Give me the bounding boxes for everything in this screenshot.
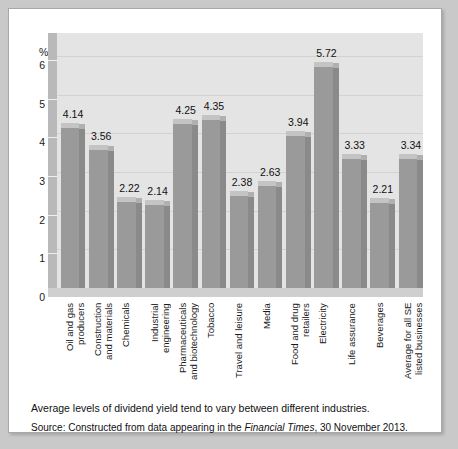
x-axis-label-7: Travel and leisure xyxy=(234,303,245,391)
bar-6 xyxy=(202,120,221,288)
bar-top-face xyxy=(286,131,305,136)
bar-top-bevel xyxy=(79,124,85,129)
bar-9 xyxy=(286,136,305,288)
y-axis-tick-0: 0 xyxy=(19,291,45,303)
bar-7 xyxy=(230,196,249,288)
y-axis-tickmark xyxy=(48,60,57,61)
x-axis-label-3: Chemicals xyxy=(121,303,132,391)
bar-top-face xyxy=(173,119,192,124)
bar-value-label: 4.35 xyxy=(204,100,224,112)
bar-10 xyxy=(314,67,333,288)
y-axis-tick-6: 6 xyxy=(19,59,45,71)
x-axis-label-2: Construction and materials xyxy=(93,303,114,391)
y-axis-tickmark xyxy=(48,137,57,138)
bar-front-face xyxy=(258,186,277,288)
bar-front-face xyxy=(61,128,80,288)
bar-front-face xyxy=(173,124,192,288)
bar-front-face xyxy=(117,202,136,288)
y-axis-tick-3: 3 xyxy=(19,175,45,187)
bar-chart: % 0123456 4.143.562.222.144.254.352.382.… xyxy=(15,15,435,393)
source-suffix: , 30 November 2013. xyxy=(314,422,407,433)
bar-top-face xyxy=(230,191,249,196)
x-axis-label-12: Beverages xyxy=(375,303,386,391)
bar-value-label: 2.38 xyxy=(232,176,252,188)
x-axis-label-13: Average for all SE listed businesses xyxy=(403,303,424,391)
bar-top-face xyxy=(258,181,277,186)
bar-top-bevel xyxy=(276,182,282,187)
y-axis-tickmark xyxy=(48,176,57,177)
bar-side-face xyxy=(417,155,423,288)
bar-top-face xyxy=(202,115,221,120)
bar-top-bevel xyxy=(389,199,395,204)
bar-front-face xyxy=(399,159,418,288)
bar-value-label: 5.72 xyxy=(316,47,336,59)
bar-top-bevel xyxy=(108,146,114,151)
bar-value-label: 2.22 xyxy=(119,182,139,194)
plot-floor xyxy=(48,288,423,297)
bar-top-face xyxy=(117,197,136,202)
bar-top-face xyxy=(370,198,389,203)
bar-1 xyxy=(61,128,80,288)
bar-top-face xyxy=(89,145,108,150)
bar-value-label: 3.33 xyxy=(344,139,364,151)
bar-5 xyxy=(173,124,192,288)
bar-side-face xyxy=(361,155,367,288)
bar-value-label: 3.34 xyxy=(401,139,421,151)
bar-top-bevel xyxy=(164,201,170,206)
y-axis-tick-1: 1 xyxy=(19,252,45,264)
bar-front-face xyxy=(230,196,249,288)
y-axis-tick-marks xyxy=(48,33,57,297)
bar-top-bevel xyxy=(333,63,339,68)
bar-top-bevel xyxy=(220,116,226,121)
bar-front-face xyxy=(202,120,221,288)
bar-value-label: 4.25 xyxy=(175,104,195,116)
y-axis-tick-2: 2 xyxy=(19,214,45,226)
bar-3 xyxy=(117,202,136,288)
bar-side-face xyxy=(276,182,282,288)
bar-top-face xyxy=(61,123,80,128)
bar-top-face xyxy=(342,154,361,159)
bar-side-face xyxy=(164,201,170,288)
x-axis-label-5: Pharmaceuticals and biotechnology xyxy=(178,303,199,391)
bar-side-face xyxy=(248,192,254,288)
y-axis-tick-labels: 0123456 xyxy=(15,15,45,393)
bar-value-label: 2.63 xyxy=(260,166,280,178)
bar-top-face xyxy=(314,62,333,67)
bar-top-bevel xyxy=(248,192,254,197)
bar-2 xyxy=(89,150,108,288)
figure-caption: Average levels of dividend yield tend to… xyxy=(31,401,431,435)
bar-8 xyxy=(258,186,277,288)
bar-value-label: 2.21 xyxy=(373,183,393,195)
bar-top-bevel xyxy=(192,120,198,125)
source-prefix: Source: Constructed from data appearing … xyxy=(31,422,244,433)
bar-side-face xyxy=(136,198,142,288)
bar-4 xyxy=(145,205,164,288)
bar-side-face xyxy=(79,124,85,288)
x-axis-label-4: Industrial engineering xyxy=(150,303,171,391)
bar-side-face xyxy=(305,132,311,288)
bar-front-face xyxy=(145,205,164,288)
bar-side-face xyxy=(108,146,114,288)
y-axis-tick-5: 5 xyxy=(19,98,45,110)
bar-side-face xyxy=(220,116,226,288)
y-axis-tickmark xyxy=(48,99,57,100)
bar-side-face xyxy=(192,120,198,288)
bar-value-label: 3.94 xyxy=(288,116,308,128)
y-axis-tickmark xyxy=(48,215,57,216)
bar-side-face xyxy=(333,63,339,288)
bar-13 xyxy=(399,159,418,288)
bar-top-bevel xyxy=(136,198,142,203)
bar-value-label: 4.14 xyxy=(63,108,83,120)
x-axis-label-9: Food and drug retailers xyxy=(290,303,311,391)
x-axis-label-1: Oil and gas producers xyxy=(65,303,86,391)
source-publication: Financial Times xyxy=(244,422,314,433)
caption-source: Source: Constructed from data appearing … xyxy=(31,420,431,435)
figure-panel: % 0123456 4.143.562.222.144.254.352.382.… xyxy=(8,8,442,433)
x-axis-label-8: Media xyxy=(262,303,273,391)
x-axis-label-11: Life assurance xyxy=(347,303,358,391)
caption-text: Average levels of dividend yield tend to… xyxy=(31,401,431,416)
bar-top-bevel xyxy=(361,155,367,160)
x-axis-label-6: Tobacco xyxy=(206,303,217,391)
plot-region: 4.143.562.222.144.254.352.382.633.945.72… xyxy=(48,33,423,297)
bar-value-label: 2.14 xyxy=(147,185,167,197)
